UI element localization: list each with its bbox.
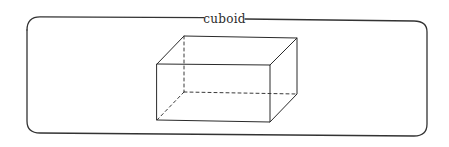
cuboid-diagram: cuboid [0, 0, 449, 147]
frame-label: cuboid [203, 12, 246, 26]
hidden-edge-depth [157, 92, 184, 120]
cuboid-top-face [157, 36, 297, 65]
hidden-edge-back-bottom [184, 92, 297, 94]
cuboid-hidden-edges [157, 36, 297, 120]
frame-top-left-segment [27, 17, 204, 30]
cuboid-shape [157, 36, 297, 122]
frame [27, 17, 427, 136]
cuboid-right-face [270, 38, 297, 122]
